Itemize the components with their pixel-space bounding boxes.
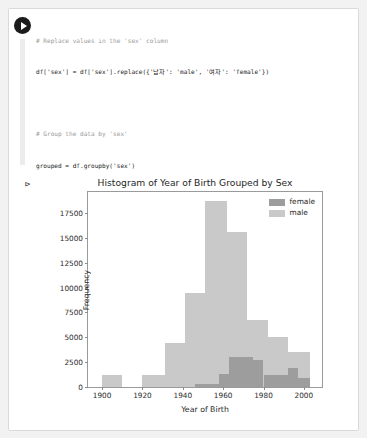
y-axis-tick-label: 2500 — [64, 358, 83, 367]
x-axis-tick-mark — [223, 387, 224, 390]
x-axis-tick-mark — [142, 387, 143, 390]
histogram-bar — [142, 375, 164, 387]
histogram-bar — [205, 201, 227, 387]
x-axis-tick-label: 1980 — [254, 391, 273, 400]
y-axis-tick-mark — [85, 288, 88, 289]
histogram-bar — [229, 357, 241, 387]
y-axis-tick-label: 5000 — [64, 333, 83, 342]
legend-label: female — [290, 198, 315, 206]
chart-axes: Frequency female male 025005000750010000… — [87, 191, 323, 388]
y-axis-tick-mark — [85, 312, 88, 313]
x-axis-tick-mark — [183, 387, 184, 390]
notebook-container: # Replace values in the 'sex' column df[… — [8, 8, 359, 431]
histogram-bar — [276, 375, 288, 387]
y-axis-tick-label: 12500 — [60, 258, 83, 267]
code-line — [36, 98, 354, 108]
legend-item-male: male — [269, 209, 315, 217]
code-line-text: df['sex'] = df['sex'].replace({'남자': 'ma… — [36, 68, 269, 75]
legend-item-female: female — [269, 198, 315, 206]
cell-rail — [20, 39, 25, 165]
y-axis-tick-mark — [85, 263, 88, 264]
x-axis-tick-label: 1960 — [214, 391, 233, 400]
x-axis-tick-label: 1900 — [93, 391, 112, 400]
code-line-text: # Group the data by 'sex' — [36, 130, 128, 137]
x-axis-tick-mark — [304, 387, 305, 390]
code-cell[interactable]: # Replace values in the 'sex' column df[… — [9, 9, 358, 171]
histogram-bar — [298, 378, 310, 387]
chart-plot-area — [88, 192, 322, 387]
x-axis-tick-mark — [102, 387, 103, 390]
code-line-text: grouped = df.groupby('sex') — [36, 162, 135, 169]
histogram-bar — [241, 357, 253, 387]
y-axis-tick-label: 10000 — [60, 283, 83, 292]
histogram-bar — [219, 374, 229, 387]
histogram-bar — [264, 375, 276, 387]
histogram-bar — [102, 375, 122, 387]
y-axis-tick-mark — [85, 213, 88, 214]
play-icon — [21, 22, 27, 30]
y-axis-tick-mark — [85, 387, 88, 388]
legend-swatch-icon — [269, 199, 285, 206]
histogram-bar — [195, 384, 207, 387]
histogram-bar — [185, 293, 205, 387]
histogram-bar — [253, 360, 263, 387]
code-line: # Group the data by 'sex' — [36, 129, 354, 139]
y-axis-tick-label: 15000 — [60, 233, 83, 242]
matplotlib-figure: Histogram of Year of Birth Grouped by Se… — [45, 175, 345, 425]
histogram-bar — [207, 384, 219, 387]
x-axis-tick-mark — [264, 387, 265, 390]
output-prompt-icon: ⊳ — [25, 179, 30, 189]
x-axis-tick-label: 2000 — [295, 391, 314, 400]
histogram-bar — [165, 343, 185, 387]
output-cell: ⊳ Histogram of Year of Birth Grouped by … — [9, 171, 358, 430]
code-cell-gutter — [9, 9, 39, 171]
chart-legend: female male — [266, 195, 319, 220]
x-axis-tick-label: 1920 — [133, 391, 152, 400]
y-axis-tick-label: 0 — [78, 383, 83, 392]
y-axis-tick-mark — [85, 362, 88, 363]
code-line: df['sex'] = df['sex'].replace({'남자': 'ma… — [36, 67, 354, 77]
legend-swatch-icon — [269, 210, 285, 217]
chart-xlabel: Year of Birth — [87, 405, 323, 414]
run-cell-button[interactable] — [14, 17, 31, 34]
code-line-text: # Replace values in the 'sex' column — [36, 37, 168, 44]
y-axis-tick-mark — [85, 238, 88, 239]
chart-title: Histogram of Year of Birth Grouped by Se… — [45, 177, 345, 188]
histogram-bar — [288, 368, 298, 387]
code-line: # Replace values in the 'sex' column — [36, 36, 354, 46]
x-axis-tick-label: 1940 — [174, 391, 193, 400]
y-axis-tick-label: 17500 — [60, 208, 83, 217]
legend-label: male — [290, 209, 308, 217]
y-axis-tick-label: 7500 — [64, 308, 83, 317]
code-line: grouped = df.groupby('sex') — [36, 161, 354, 171]
y-axis-tick-mark — [85, 337, 88, 338]
